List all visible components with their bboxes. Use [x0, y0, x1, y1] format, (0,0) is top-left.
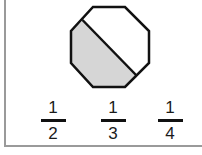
shaded-half — [71, 21, 137, 87]
fraction-bar — [41, 119, 66, 122]
numerator: 1 — [155, 99, 185, 117]
octagon-figure — [0, 0, 202, 100]
denominator: 4 — [155, 125, 185, 143]
numerator: 1 — [98, 99, 128, 117]
fraction-option-half[interactable]: 1 2 — [38, 99, 68, 143]
fraction-bar — [158, 119, 183, 122]
denominator: 2 — [38, 125, 68, 143]
fraction-option-quarter[interactable]: 1 4 — [155, 99, 185, 143]
fraction-bar — [101, 119, 126, 122]
fraction-option-third[interactable]: 1 3 — [98, 99, 128, 143]
denominator: 3 — [98, 125, 128, 143]
numerator: 1 — [38, 99, 68, 117]
